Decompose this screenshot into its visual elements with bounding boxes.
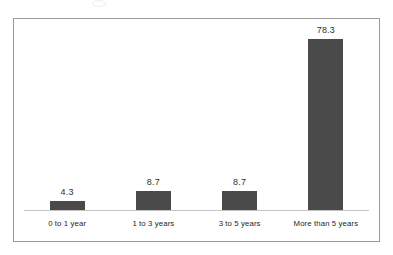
category-label-3: More than 5 years (283, 212, 369, 229)
bar-1[interactable] (136, 191, 171, 210)
category-axis-labels: 0 to 1 year 1 to 3 years 3 to 5 years Mo… (24, 212, 369, 242)
category-label-0: 0 to 1 year (24, 212, 110, 229)
chart-page: 4.3 8.7 8.7 78.3 0 to 1 year (0, 0, 393, 255)
bar-group-3[interactable]: 78.3 (283, 19, 369, 210)
bar-value-label-0: 4.3 (61, 187, 74, 198)
bar-value-label-2: 8.7 (233, 177, 246, 188)
bar-group-0[interactable]: 4.3 (24, 19, 110, 210)
bar-group-1[interactable]: 8.7 (110, 19, 196, 210)
category-axis-line (24, 210, 369, 211)
bar-3[interactable] (308, 39, 343, 210)
chart-frame: 4.3 8.7 8.7 78.3 0 to 1 year (13, 18, 380, 242)
category-label-1: 1 to 3 years (110, 212, 196, 229)
bar-2[interactable] (222, 191, 257, 210)
scan-artifact (92, 0, 106, 7)
bar-value-label-3: 78.3 (317, 25, 335, 36)
category-label-2: 3 to 5 years (197, 212, 283, 229)
plot-area: 4.3 8.7 8.7 78.3 0 to 1 year (14, 19, 379, 241)
bar-group-2[interactable]: 8.7 (197, 19, 283, 210)
bar-series: 4.3 8.7 8.7 78.3 (24, 19, 369, 210)
bar-0[interactable] (50, 201, 85, 210)
bar-value-label-1: 8.7 (147, 177, 160, 188)
